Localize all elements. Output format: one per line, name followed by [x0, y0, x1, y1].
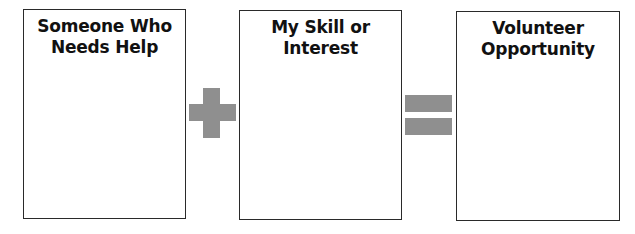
box-title: Someone Who Needs Help [24, 16, 185, 58]
box-my-skill-or-interest: My Skill or Interest [239, 10, 402, 220]
box-title: Volunteer Opportunity [457, 18, 619, 60]
box-title: My Skill or Interest [240, 17, 401, 59]
box-volunteer-opportunity: Volunteer Opportunity [456, 11, 620, 221]
box-someone-who-needs-help: Someone Who Needs Help [23, 9, 186, 219]
